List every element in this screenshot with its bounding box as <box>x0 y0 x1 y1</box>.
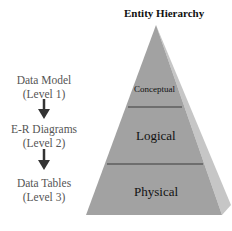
level-3-name: Data Tables <box>0 176 88 190</box>
arrow-down-icon <box>38 160 50 170</box>
arrow-down-icon <box>38 109 50 119</box>
tier-physical: Physical <box>134 184 178 200</box>
tier-logical: Logical <box>136 128 176 144</box>
level-1-number: (Level 1) <box>0 87 88 101</box>
level-2-label: E-R Diagrams (Level 2) <box>0 122 88 150</box>
level-3-label: Data Tables (Level 3) <box>0 176 88 204</box>
level-2-name: E-R Diagrams <box>0 122 88 136</box>
level-2-number: (Level 2) <box>0 136 88 150</box>
tier-conceptual: Conceptual <box>134 84 175 94</box>
level-1-label: Data Model (Level 1) <box>0 73 88 101</box>
level-1-name: Data Model <box>0 73 88 87</box>
level-3-number: (Level 3) <box>0 190 88 204</box>
